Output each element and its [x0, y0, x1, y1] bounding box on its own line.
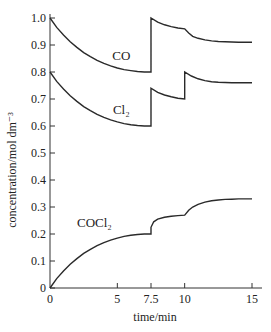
x-tick-label: 7.5 [144, 292, 159, 306]
y-axis-title: concentration/mol dm⁻³ [5, 112, 19, 228]
x-tick-label: 5 [114, 292, 120, 306]
x-tick-label: 0 [47, 292, 53, 306]
y-tick-label: 0.3 [31, 200, 46, 214]
x-tick-label: 15 [246, 292, 258, 306]
x-tick-label: 10 [179, 292, 191, 306]
series-cl2: Cl₂ [50, 72, 252, 126]
y-tick-label: 0.7 [31, 92, 46, 106]
y-ticks: 00.10.20.30.40.50.60.70.80.91.0 [31, 11, 55, 295]
y-tick-label: 0.8 [31, 65, 46, 79]
x-axis: 057.51015 [47, 283, 262, 306]
y-axis: 00.10.20.30.40.50.60.70.80.91.0 [31, 11, 55, 295]
y-tick-label: 0.4 [31, 173, 46, 187]
series-co: CO [50, 18, 252, 72]
x-ticks: 057.51015 [47, 283, 258, 306]
series-label: Cl₂ [113, 102, 130, 117]
concentration-time-chart: 00.10.20.30.40.50.60.70.80.91.0 057.5101… [0, 0, 271, 332]
series-line [50, 199, 252, 288]
y-tick-label: 0.2 [31, 227, 46, 241]
y-tick-label: 1.0 [31, 11, 46, 25]
series-label: COCl₂ [77, 215, 112, 230]
x-axis-title: time/min [133, 310, 176, 324]
series-cocl2: COCl₂ [50, 199, 252, 288]
series-group: COCl₂COCl₂ [50, 18, 252, 288]
y-tick-label: 0.1 [31, 254, 46, 268]
series-line [50, 18, 252, 72]
series-label: CO [112, 48, 130, 63]
y-tick-label: 0.5 [31, 146, 46, 160]
y-tick-label: 0.9 [31, 38, 46, 52]
y-tick-label: 0 [40, 281, 46, 295]
y-tick-label: 0.6 [31, 119, 46, 133]
series-line [50, 72, 252, 126]
